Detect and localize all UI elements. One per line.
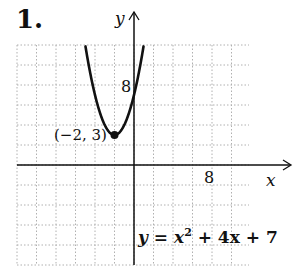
vertex-point bbox=[111, 131, 119, 139]
y-axis-label: y bbox=[114, 8, 125, 28]
x-axis-label: x bbox=[266, 170, 276, 190]
vertex-label: (−2, 3) bbox=[54, 126, 107, 144]
equation-rest: + 4x + 7 bbox=[192, 227, 278, 247]
equation-exponent: 2 bbox=[184, 226, 192, 239]
equation-label: y = x2 + 4x + 7 bbox=[137, 226, 278, 247]
y-tick-label: 8 bbox=[121, 77, 131, 96]
x-tick-label: 8 bbox=[204, 168, 214, 187]
parabola-chart: y x 8 8 (−2, 3) y = x2 + 4x + 7 bbox=[0, 0, 303, 267]
equation-eq: = bbox=[148, 227, 174, 247]
